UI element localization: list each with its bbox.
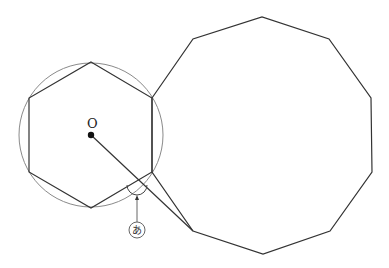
pointer-arrowhead bbox=[135, 195, 139, 200]
regular-decagon bbox=[152, 17, 372, 254]
segment-center-to-decagon-vertex bbox=[91, 135, 193, 231]
geometry-diagram: O あ bbox=[0, 0, 389, 268]
center-point bbox=[88, 132, 94, 138]
center-label: O bbox=[87, 116, 98, 131]
angle-marker-label: あ bbox=[132, 225, 142, 236]
